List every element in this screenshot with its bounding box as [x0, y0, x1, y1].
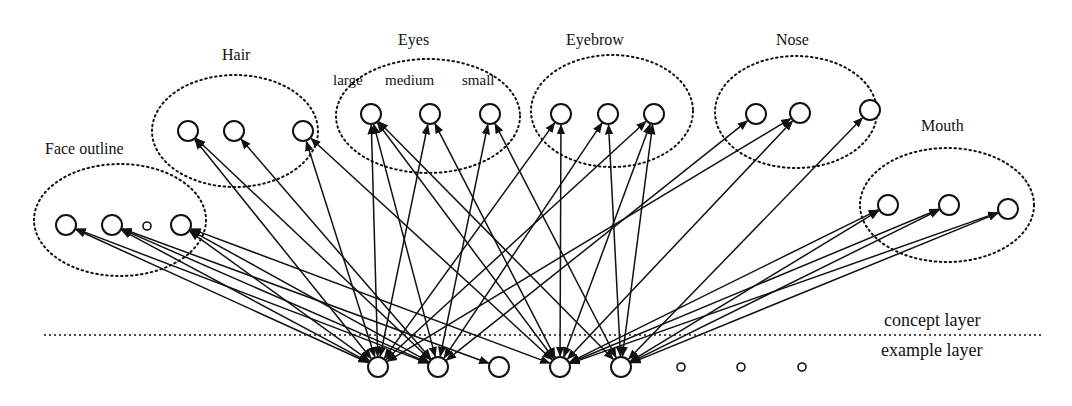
face-outline-node	[143, 222, 151, 230]
mouth-node	[878, 195, 898, 215]
bidirectional-edge	[568, 121, 793, 359]
bidirectional-edge	[76, 230, 368, 363]
example-node	[798, 363, 806, 371]
example-node	[550, 357, 570, 377]
bidirectional-edge	[440, 125, 488, 356]
mouth-node	[939, 195, 959, 215]
bidirectional-edge	[122, 229, 428, 362]
nose-node	[860, 100, 880, 120]
hair-node	[224, 121, 244, 141]
example-node	[428, 357, 448, 377]
face-outline-group-label: Face outline	[45, 140, 124, 158]
concept-group-ellipses	[34, 55, 1034, 276]
bidirectional-edge	[609, 125, 621, 356]
mouth-group-label: Mouth	[921, 117, 964, 135]
hair-group-label: Hair	[222, 46, 250, 64]
nose-node	[746, 104, 766, 124]
bidirectional-edge	[560, 125, 561, 356]
face-outline-node	[56, 215, 76, 235]
eyes-node	[361, 104, 381, 124]
example-node	[677, 363, 685, 371]
bidirectional-edge	[311, 138, 552, 359]
eyebrow-node	[644, 104, 664, 124]
hair-node	[293, 121, 313, 141]
eye-size-label: large	[333, 72, 363, 89]
face-outline-node	[171, 215, 191, 235]
concept-nodes	[56, 100, 1018, 235]
nose-node	[790, 103, 810, 123]
eyes-group-label: Eyes	[398, 31, 429, 49]
eyes-node	[480, 104, 500, 124]
concept-layer-label: concept layer	[884, 310, 980, 331]
eyebrow-group-label: Eyebrow	[566, 31, 624, 49]
eyes-node	[420, 104, 440, 124]
bidirectional-edge	[196, 139, 430, 360]
bidirectional-edge	[384, 123, 554, 358]
example-node	[489, 357, 509, 377]
hair-node	[178, 121, 198, 141]
eye-size-label: small	[462, 72, 495, 89]
bidirectional-edges	[76, 118, 998, 363]
bidirectional-edge	[380, 125, 428, 356]
example-node	[368, 357, 388, 377]
eyebrow-node	[598, 104, 618, 124]
mouth-node	[998, 199, 1018, 219]
nose-group-label: Nose	[776, 31, 809, 49]
example-node	[737, 363, 745, 371]
bidirectional-edge	[190, 231, 369, 360]
bidirectional-edge	[122, 229, 488, 363]
eyebrow-node	[551, 104, 571, 124]
bidirectional-edge	[195, 140, 371, 359]
bidirectional-edge	[387, 119, 790, 362]
example-nodes	[368, 357, 806, 377]
example-layer-label: example layer	[881, 340, 982, 361]
eye-size-label: medium	[385, 72, 434, 89]
face-outline-node	[102, 215, 122, 235]
example-node	[611, 357, 631, 377]
bidirectional-edge	[122, 230, 369, 362]
